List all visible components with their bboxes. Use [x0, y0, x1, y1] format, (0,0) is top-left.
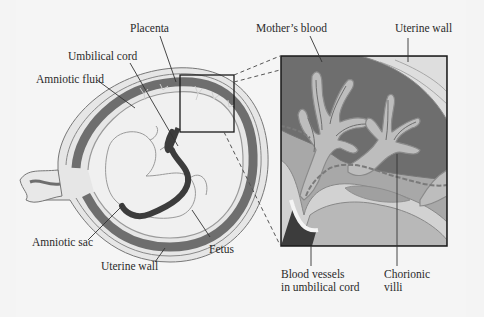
diagram-canvas: Placenta Umbilical cord Amniotic fluid M… [0, 0, 484, 317]
placenta-detail-view [281, 56, 447, 246]
label-chorionic-line1: Chorionic [384, 268, 430, 281]
uterus-overview [20, 68, 268, 262]
label-blood-vessels-line2: in umbilical cord [281, 281, 360, 294]
label-blood-vessels-line1: Blood vessels [281, 268, 345, 281]
label-fetus: Fetus [209, 243, 234, 256]
label-mothers-blood: Mother’s blood [256, 22, 327, 35]
label-chorionic-line2: villi [384, 281, 403, 294]
label-amniotic-sac: Amniotic sac [32, 236, 93, 249]
label-amniotic-fluid: Amniotic fluid [36, 73, 104, 86]
label-placenta: Placenta [130, 22, 169, 35]
label-uterine-wall-bottom: Uterine wall [101, 260, 158, 273]
label-umbilical-cord: Umbilical cord [68, 50, 137, 63]
label-uterine-wall-top: Uterine wall [395, 22, 452, 35]
